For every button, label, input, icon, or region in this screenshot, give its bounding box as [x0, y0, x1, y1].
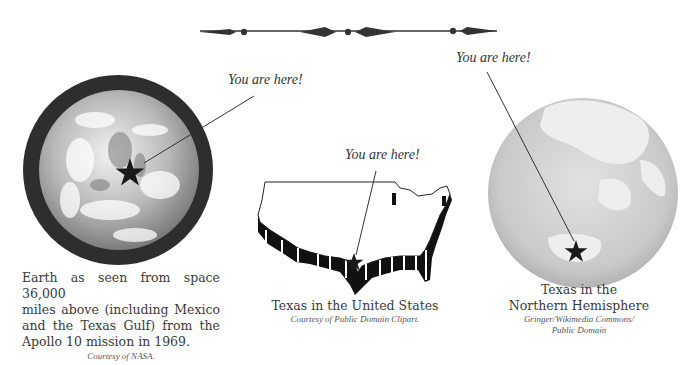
- credit-earth: Courtesy of NASA.: [22, 351, 220, 362]
- caption-earth: Earth as seen from space 36,000 miles ab…: [22, 270, 220, 362]
- pointer-label-earth: You are here!: [228, 72, 303, 88]
- pointer-label-hemisphere: You are here!: [456, 50, 531, 66]
- credit-line: Public Domain: [484, 325, 674, 336]
- credit-line: Gringer/Wikimedia Commons/: [484, 314, 674, 325]
- caption-line: miles above (including Mexico: [22, 302, 220, 318]
- caption-title: Texas in the United States: [262, 298, 448, 314]
- us-map: [258, 182, 452, 295]
- hemisphere-globe: [488, 98, 678, 288]
- caption-hemisphere: Texas in the Northern Hemisphere Gringer…: [484, 282, 674, 336]
- caption-line: Earth as seen from space 36,000: [22, 270, 220, 302]
- caption-line: and the Texas Gulf) from the: [22, 318, 220, 334]
- ornament-divider: [200, 27, 497, 37]
- caption-us: Texas in the United States Courtesy of P…: [262, 298, 448, 325]
- pointer-label-us: You are here!: [345, 147, 420, 163]
- caption-line: Apollo 10 mission in 1969.: [22, 334, 220, 350]
- caption-line: Texas in the: [484, 282, 674, 298]
- credit-us: Courtesy of Public Domain Clipart.: [262, 314, 448, 325]
- caption-line: Northern Hemisphere: [484, 298, 674, 314]
